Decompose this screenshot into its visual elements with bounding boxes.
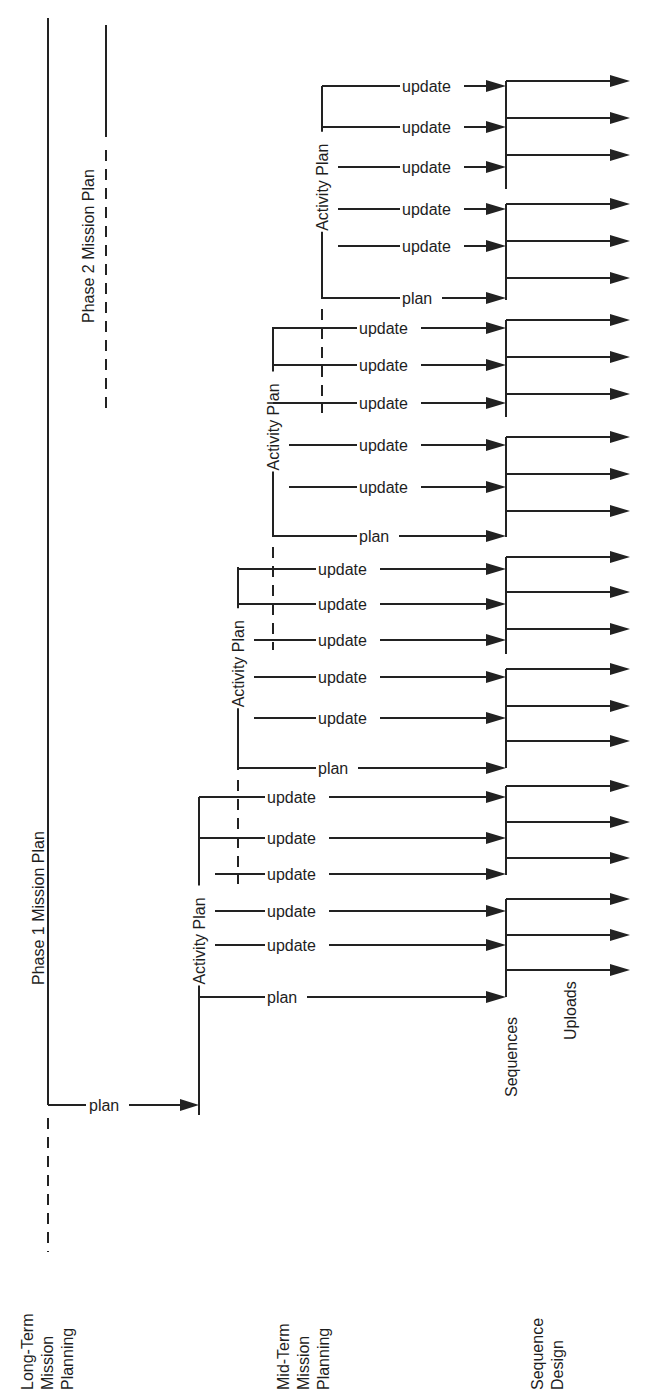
arrowhead-icon [610, 816, 630, 828]
activity-plan-label: Activity Plan [314, 144, 331, 231]
arrowhead-icon [486, 161, 506, 173]
arrowhead-icon [486, 397, 506, 409]
arrowhead-icon [610, 235, 630, 247]
svg-text:Mid-Term: Mid-Term [275, 1323, 292, 1390]
arrowhead-icon [610, 112, 630, 124]
arrowhead-icon [610, 551, 630, 563]
arrowhead-icon [486, 240, 506, 252]
sequence-blocks [506, 75, 630, 997]
arrowhead-icon [486, 563, 506, 575]
arrowhead-icon [486, 868, 506, 880]
activity-update-row: update [254, 669, 506, 686]
activity-update-row: update [273, 395, 506, 412]
activity-update-row: update [199, 830, 506, 847]
column-heading-long-term: Long-Term Mission Planning [19, 1314, 76, 1390]
update-label: update [267, 866, 316, 883]
arrowhead-icon [610, 198, 630, 210]
mission-planning-diagram: Phase 1 Mission Plan Phase 2 Mission Pla… [0, 0, 658, 1398]
activity-update-row: plan [322, 290, 506, 307]
update-label: update [402, 159, 451, 176]
arrowhead-icon [486, 292, 506, 304]
arrowhead-icon [610, 388, 630, 400]
update-label: update [359, 437, 408, 454]
long-term-plan-label: plan [89, 1097, 119, 1114]
arrowhead-icon [486, 791, 506, 803]
activity-update-row: update [322, 119, 506, 136]
activity-update-row: update [215, 903, 506, 920]
activity-plan-label: Activity Plan [191, 897, 208, 984]
update-label: update [402, 119, 451, 136]
phase2-label: Phase 2 Mission Plan [80, 169, 97, 323]
arrowhead-icon [610, 272, 630, 284]
svg-text:Design: Design [549, 1340, 566, 1390]
arrowhead-icon [486, 832, 506, 844]
svg-text:Long-Term: Long-Term [19, 1314, 36, 1390]
activity-update-row: update [254, 710, 506, 727]
arrowhead-icon [610, 735, 630, 747]
update-label: update [359, 320, 408, 337]
arrowhead-icon [610, 893, 630, 905]
activity-update-row: update [273, 320, 506, 337]
sequences-label: Sequences [503, 1017, 520, 1097]
activity-update-row: plan [238, 760, 506, 777]
update-label: update [402, 78, 451, 95]
arrowhead-icon [610, 75, 630, 87]
arrowhead-icon [610, 964, 630, 976]
activity-update-row: update [215, 937, 506, 954]
update-label: update [318, 596, 367, 613]
activity-update-row: update [238, 596, 506, 613]
arrowhead-icon [486, 322, 506, 334]
arrowhead-icon [486, 481, 506, 493]
arrowhead-icon [486, 359, 506, 371]
arrowhead-icon [610, 780, 630, 792]
activity-update-row: update [273, 357, 506, 374]
sequence-block [506, 431, 630, 537]
activity-plan-group: Activity Planupdateupdateupdateupdateupd… [265, 320, 506, 650]
svg-text:Mission: Mission [295, 1336, 312, 1390]
arrowhead-icon [486, 905, 506, 917]
svg-text:Mission: Mission [39, 1336, 56, 1390]
arrowhead-icon [486, 80, 506, 92]
arrowhead-icon [610, 314, 630, 326]
activity-update-row: update [289, 437, 506, 454]
sequence-block [506, 314, 630, 417]
arrowhead-icon [486, 671, 506, 683]
arrowhead-icon [180, 1099, 199, 1111]
svg-text:Planning: Planning [59, 1328, 76, 1390]
arrowhead-icon [610, 929, 630, 941]
arrowhead-icon [486, 712, 506, 724]
activity-update-row: update [338, 201, 506, 218]
update-label: update [359, 479, 408, 496]
arrowhead-icon [486, 598, 506, 610]
uploads-label: Uploads [562, 981, 579, 1040]
svg-text:Planning: Planning [315, 1328, 332, 1390]
arrowhead-icon [610, 149, 630, 161]
update-label: update [359, 357, 408, 374]
update-label: update [402, 238, 451, 255]
update-label: update [359, 395, 408, 412]
arrowhead-icon [486, 439, 506, 451]
sequence-block [506, 75, 630, 189]
update-label: plan [402, 290, 432, 307]
activity-plan-groups: Activity Planupdateupdateupdateupdateupd… [191, 78, 506, 1115]
update-label: update [267, 903, 316, 920]
arrowhead-icon [610, 663, 630, 675]
update-label: plan [267, 989, 297, 1006]
activity-update-row: update [215, 866, 506, 883]
arrowhead-icon [610, 586, 630, 598]
sequence-block [506, 663, 630, 768]
activity-plan-group: Activity Planupdateupdateupdateupdateupd… [314, 78, 506, 413]
arrowhead-icon [610, 351, 630, 363]
arrowhead-icon [610, 431, 630, 443]
column-heading-sequence-design: Sequence Design [529, 1318, 566, 1390]
update-label: update [318, 632, 367, 649]
phase1-label: Phase 1 Mission Plan [30, 831, 47, 985]
arrowhead-icon [486, 121, 506, 133]
activity-plan-label: Activity Plan [230, 620, 247, 707]
arrowhead-icon [486, 762, 506, 774]
update-label: update [267, 789, 316, 806]
update-label: update [318, 561, 367, 578]
activity-update-row: update [322, 78, 506, 95]
arrowhead-icon [486, 991, 506, 1003]
arrowhead-icon [610, 468, 630, 480]
